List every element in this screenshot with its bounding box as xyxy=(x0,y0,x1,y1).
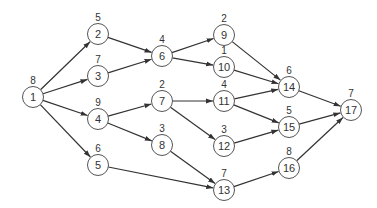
edge-10-to-14 xyxy=(234,70,279,84)
node-label: 5 xyxy=(95,159,101,171)
edge-2-to-6 xyxy=(108,37,152,52)
edge-11-to-14 xyxy=(234,89,278,99)
edge-14-to-17 xyxy=(299,91,341,107)
node-8: 83 xyxy=(152,123,173,156)
node-6: 64 xyxy=(152,34,173,67)
node-15: 155 xyxy=(279,105,300,138)
node-label: 8 xyxy=(159,139,165,151)
node-label: 6 xyxy=(159,50,165,62)
node-16: 168 xyxy=(279,146,300,179)
node-weight: 7 xyxy=(348,88,354,99)
node-weight: 3 xyxy=(159,123,165,134)
node-3: 37 xyxy=(88,54,109,87)
node-label: 10 xyxy=(218,61,230,73)
node-weight: 4 xyxy=(159,34,165,45)
node-label: 9 xyxy=(221,29,227,41)
edge-8-to-13 xyxy=(171,151,216,183)
node-weight: 5 xyxy=(286,105,292,116)
node-label: 3 xyxy=(95,70,101,82)
edge-1-to-5 xyxy=(40,105,90,157)
node-weight: 2 xyxy=(159,79,165,90)
node-weight: 7 xyxy=(221,168,227,179)
edge-12-to-15 xyxy=(234,130,278,143)
node-label: 13 xyxy=(218,184,230,196)
node-2: 25 xyxy=(88,12,109,45)
node-11: 114 xyxy=(214,79,235,112)
edge-13-to-16 xyxy=(234,172,279,187)
node-label: 7 xyxy=(159,95,165,107)
node-14: 146 xyxy=(279,65,300,98)
edge-1-to-4 xyxy=(43,100,88,115)
edge-7-to-12 xyxy=(171,107,216,139)
edge-6-to-10 xyxy=(172,58,213,65)
node-9: 92 xyxy=(214,13,235,46)
node-10: 101 xyxy=(214,45,235,78)
node-weight: 6 xyxy=(286,65,292,76)
node-label: 14 xyxy=(283,81,295,93)
node-weight: 4 xyxy=(221,79,227,90)
node-17: 177 xyxy=(341,88,362,121)
node-weight: 7 xyxy=(95,54,101,65)
node-label: 15 xyxy=(283,121,295,133)
node-label: 11 xyxy=(218,95,229,107)
node-weight: 9 xyxy=(95,97,101,108)
node-7: 72 xyxy=(152,79,173,112)
node-weight: 1 xyxy=(221,45,227,56)
edge-4-to-7 xyxy=(108,104,151,116)
node-label: 17 xyxy=(345,104,357,116)
node-label: 2 xyxy=(95,28,101,40)
node-1: 18 xyxy=(23,75,44,108)
node-weight: 6 xyxy=(95,143,101,154)
network-diagram: 1825374956647283921011141231371461551681… xyxy=(0,0,377,208)
node-13: 137 xyxy=(214,168,235,201)
node-12: 123 xyxy=(214,124,235,157)
node-weight: 3 xyxy=(221,124,227,135)
edge-3-to-6 xyxy=(108,59,152,73)
node-label: 1 xyxy=(30,91,36,103)
node-weight: 8 xyxy=(286,146,292,157)
node-4: 49 xyxy=(88,97,109,130)
edge-1-to-2 xyxy=(41,42,91,90)
nodes-layer: 1825374956647283921011141231371461551681… xyxy=(23,12,362,201)
edge-6-to-9 xyxy=(172,39,214,53)
node-label: 4 xyxy=(95,113,101,125)
edge-16-to-17 xyxy=(297,118,343,161)
edge-4-to-8 xyxy=(108,123,152,141)
node-weight: 8 xyxy=(30,75,36,86)
edge-9-to-14 xyxy=(232,42,280,81)
node-label: 16 xyxy=(283,162,295,174)
node-weight: 2 xyxy=(221,13,227,24)
node-label: 12 xyxy=(218,140,230,152)
node-5: 56 xyxy=(88,143,109,176)
edge-11-to-15 xyxy=(234,105,279,123)
node-weight: 5 xyxy=(95,12,101,23)
edge-15-to-17 xyxy=(299,113,340,124)
